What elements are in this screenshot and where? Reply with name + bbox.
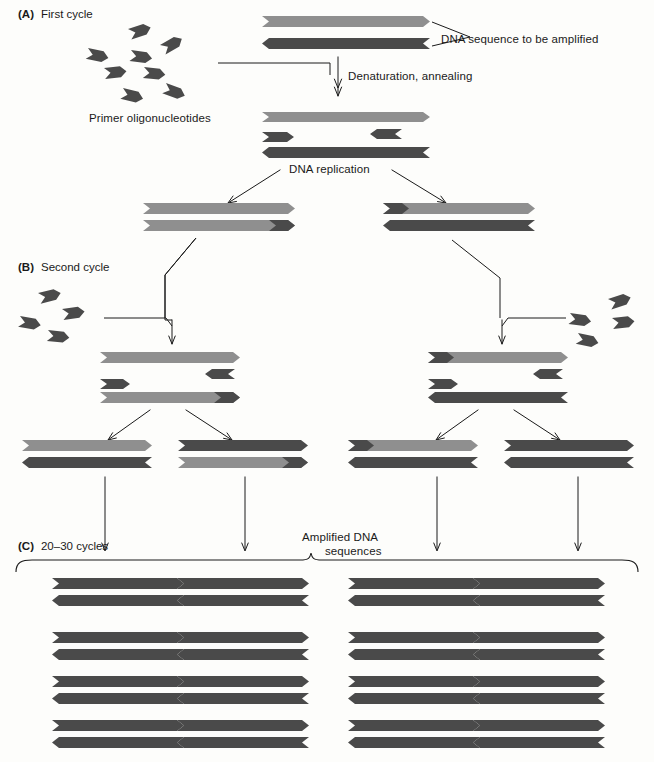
connector-a-left-to-b-2 [165,238,196,318]
arrow-replication-right-shaft [392,170,446,203]
primer-oligonucleotide-b-right-4 [576,333,600,348]
primer-oligonucleotide-6 [143,67,166,80]
arrow-b-split-2-head [223,433,232,440]
section-heading-c: (C)20–30 cycles [18,540,108,552]
amplified-dna-label-line1: Amplified DNA [302,531,378,543]
primer-oligonucleotide-7 [120,88,144,104]
connector-b-left-primers [104,318,172,326]
primer-oligonucleotide-b-right-3 [612,316,635,329]
primer-oligonucleotide-b-left-2 [18,316,42,331]
primer-annealed-a-right [370,129,402,139]
dna-replication-label: DNA replication [289,163,370,175]
amplified-duplex-r2-c1-top [52,632,184,643]
primer-chevron-icon [162,83,186,101]
primer-annealed-b-left-left [100,379,130,389]
primer-oligonucleotide-b-left-1 [38,288,62,304]
amplified-duplex-r4-c2-bottom [177,737,309,748]
amplified-duplex-r2-c3-bottom [348,649,480,660]
amplified-duplex-r4-c1-top [52,720,184,731]
primer-chevron-icon [18,316,42,331]
strand-a-product-left-top [143,203,295,214]
connector-b-right-primers [502,318,566,326]
amplified-duplex-r2-c2-bottom [177,649,309,660]
primer-chevron-icon [160,34,185,55]
amplified-duplex-r3-c1-bottom [52,693,184,704]
strand-a-product-right-bottom [383,220,535,231]
primer-chevron-icon [576,333,600,348]
primer-chevron-icon [143,67,166,80]
primer-annealed-b-right-right [533,369,563,379]
arrow-b-split-4-shaft [514,410,560,440]
section-label-c: 20–30 cycles [41,540,108,552]
amplified-duplex-r3-c4-top [473,676,605,687]
amplified-duplex-r1-c2-bottom [177,595,309,606]
duplex-b-1-bottom [22,457,152,468]
section-tag-c: (C) [18,540,34,552]
primer-oligonucleotides-label: Primer oligonucleotides [89,112,211,124]
primer-chevron-icon [568,313,591,327]
amplified-duplex-r3-c4-bottom [473,693,605,704]
section-label-b: Second cycle [41,261,109,273]
primer-oligonucleotide-4 [160,34,185,55]
amplified-duplex-r1-c2-top [177,578,309,589]
strand-b-left-top [100,352,240,363]
section-heading-b: (B)Second cycle [18,261,109,273]
primer-oligonucleotide-3 [129,50,152,64]
primer-oligonucleotide-b-right-2 [568,313,591,327]
amplified-duplex-r1-c3-bottom [348,595,480,606]
amplified-duplex-r4-c2-top [177,720,309,731]
amplified-duplex-r1-c4-bottom [473,595,605,606]
arrow-b-split-1-head [108,432,117,440]
arrow-replication-left-shaft [228,170,280,203]
primer-chevron-icon [129,50,152,64]
arrow-b-split-2-shaft [186,410,232,440]
amplified-duplex-r1-c1-bottom [52,595,184,606]
denaturation-annealing-label: Denaturation, annealing [348,70,472,82]
primer-chevron-icon [608,292,632,309]
strand-a-template-bottom [262,38,430,49]
amplified-duplex-r1-c3-top [348,578,480,589]
arrow-b-split-3-shaft [436,410,478,440]
amplified-duplex-r2-c4-bottom [473,649,605,660]
strand-a-template-top [262,16,430,27]
duplex-b-3-bottom [348,457,478,468]
arrow-replication-left-head [228,196,237,203]
dna-sequence-callout: DNA sequence to be amplified [441,33,599,45]
section-label-a: First cycle [41,8,93,20]
primer-chevron-icon [612,316,635,329]
amplified-duplex-r1-c1-top [52,578,184,589]
amplified-duplex-r4-c4-top [473,720,605,731]
primer-oligonucleotide-1 [128,22,152,39]
pcr-diagram: (A)First cycle (B)Second cycle (C)20–30 … [0,0,654,762]
primer-chevron-icon [120,88,144,104]
primer-oligonucleotide-b-left-4 [47,330,70,343]
amplified-duplex-r4-c3-top [348,720,480,731]
primer-chevron-icon [47,330,70,343]
amplified-duplex-r3-c2-top [177,676,309,687]
amplified-duplex-r4-c4-bottom [473,737,605,748]
strand-b-right-bottom [428,392,568,403]
section-tag-b: (B) [18,261,34,273]
strand-a-denatured-top [262,112,430,122]
primer-chevron-icon [128,22,152,39]
amplified-duplex-r3-c2-bottom [177,693,309,704]
duplex-b-4-top [504,440,634,451]
arrow-b-split-1-shaft [108,410,150,440]
amplified-duplex-r3-c1-top [52,676,184,687]
amplified-duplex-r2-c4-top [473,632,605,643]
primer-chevron-icon [38,288,62,304]
primer-oligonucleotide-8 [162,83,186,101]
primer-oligonucleotide-b-right-1 [608,292,632,309]
arrow-replication-right-head [437,196,446,203]
amplified-duplex-r3-c3-bottom [348,693,480,704]
amplified-duplex-r4-c1-bottom [52,737,184,748]
section-tag-a: (A) [18,8,34,20]
strand-a-denatured-bottom [262,147,430,158]
primer-annealed-b-left-right [205,369,235,379]
amplified-duplex-r2-c1-bottom [52,649,184,660]
primer-oligonucleotide-b-left-3 [62,306,85,320]
connector-primers-to-denaturation [218,63,330,75]
amplified-duplex-r1-c4-top [473,578,605,589]
primer-chevron-icon [62,306,85,320]
primer-chevron-icon [104,66,127,79]
